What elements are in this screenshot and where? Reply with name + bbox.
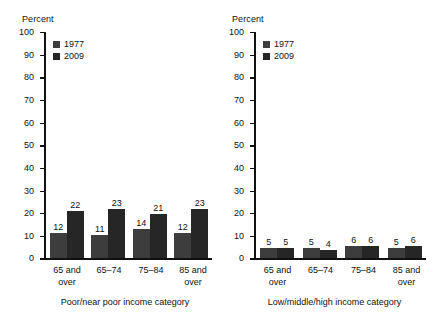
bar-wrap: 5 [388, 32, 405, 258]
bar-wrap: 6 [345, 32, 362, 258]
legend-item-2009: 2009 [53, 52, 84, 61]
y-axis-title: Percent [232, 14, 264, 24]
x-axis-title: Low/middle/high income category [237, 297, 432, 307]
bar-wrap: 23 [108, 32, 125, 258]
chart-panel-poor-near-poor: Percent 12 22 [0, 0, 217, 320]
bar-2009: 22 [67, 211, 84, 258]
y-tick: 10 [40, 236, 44, 237]
legend-swatch-icon [263, 53, 270, 60]
y-tick: 20 [40, 213, 44, 214]
y-tick: 10 [250, 236, 254, 237]
category-label: 75–84 [130, 265, 172, 288]
bar-value-2009: 5 [283, 238, 288, 247]
bar-wrap: 5 [277, 32, 294, 258]
bar-value-1977: 5 [394, 238, 399, 247]
y-tick-label: 80 [234, 73, 244, 82]
category-label: 65–74 [299, 265, 342, 288]
bar-2009: 6 [405, 246, 422, 259]
category-label: 65–74 [88, 265, 130, 288]
category-label: 75–84 [342, 265, 385, 288]
bar-1977: 5 [303, 248, 320, 259]
bar-group: 14 21 [129, 32, 171, 258]
bar-groups: 5 5 5 [256, 32, 426, 258]
bar-1977: 6 [345, 246, 362, 259]
y-tick-label: 10 [234, 231, 244, 240]
legend-swatch-icon [263, 41, 270, 48]
y-tick: 80 [40, 77, 44, 78]
bar-value-1977: 11 [95, 225, 104, 234]
category-label: 65 and over [46, 265, 88, 288]
y-axis-title: Percent [22, 14, 54, 24]
legend-item-1977: 1977 [263, 40, 294, 49]
legend: 1977 2009 [263, 40, 294, 61]
bar-group: 11 23 [88, 32, 130, 258]
y-tick: 100 [250, 32, 254, 33]
bar-group: 6 6 [341, 32, 384, 258]
bar-value-1977: 12 [53, 223, 63, 232]
y-tick-label: 80 [24, 73, 34, 82]
bar-1977: 12 [174, 233, 191, 259]
bar-group: 5 5 [256, 32, 299, 258]
bar-group: 12 23 [171, 32, 213, 258]
bar-value-1977: 12 [178, 223, 188, 232]
y-tick: 30 [250, 191, 254, 192]
y-tick-label: 20 [234, 209, 244, 218]
bar-wrap: 21 [150, 32, 167, 258]
bar-wrap: 23 [191, 32, 208, 258]
bar-1977: 11 [91, 235, 108, 259]
bar-1977: 5 [388, 248, 405, 259]
legend: 1977 2009 [53, 40, 84, 61]
y-tick: 40 [40, 168, 44, 169]
bar-value-1977: 5 [266, 238, 271, 247]
plot-area: 12 22 11 [44, 32, 212, 260]
bar-2009: 6 [362, 246, 379, 259]
y-tick-label: 70 [234, 95, 244, 104]
y-tick: 50 [250, 145, 254, 146]
y-tick-label: 100 [19, 28, 34, 37]
bar-value-2009: 22 [70, 201, 80, 210]
y-tick: 50 [40, 145, 44, 146]
bar-wrap: 12 [174, 32, 191, 258]
bar-value-2009: 6 [411, 236, 416, 245]
bar-1977: 12 [50, 233, 67, 259]
bar-value-2009: 6 [368, 236, 373, 245]
bar-wrap: 5 [303, 32, 320, 258]
bar-value-1977: 14 [136, 219, 146, 228]
y-tick: 0 [40, 258, 44, 259]
legend-swatch-icon [53, 53, 60, 60]
y-tick: 70 [250, 100, 254, 101]
y-tick-label: 100 [229, 28, 244, 37]
y-tick-label: 0 [239, 254, 244, 263]
legend-label: 2009 [64, 52, 84, 61]
y-tick: 30 [40, 191, 44, 192]
category-label: 85 and over [385, 265, 428, 288]
category-label: 65 and over [256, 265, 299, 288]
bar-groups: 12 22 11 [46, 32, 212, 258]
x-axis-line [44, 258, 212, 260]
legend-label: 1977 [274, 40, 294, 49]
bar-wrap: 4 [320, 32, 337, 258]
bar-wrap: 11 [91, 32, 108, 258]
bar-1977: 5 [260, 248, 277, 259]
y-tick-label: 40 [234, 163, 244, 172]
bar-group: 5 4 [299, 32, 342, 258]
y-tick-label: 0 [29, 254, 34, 263]
bar-wrap: 14 [133, 32, 150, 258]
bar-value-1977: 5 [309, 238, 314, 247]
bar-wrap: 12 [50, 32, 67, 258]
bar-wrap: 22 [67, 32, 84, 258]
bar-2009: 23 [191, 209, 208, 258]
y-tick-label: 70 [24, 95, 34, 104]
bar-value-2009: 23 [112, 199, 122, 208]
legend-label: 1977 [64, 40, 84, 49]
y-tick-label: 30 [234, 186, 244, 195]
y-tick-label: 60 [24, 118, 34, 127]
bar-2009: 5 [277, 248, 294, 259]
y-tick: 40 [250, 168, 254, 169]
plot-area: 5 5 5 [254, 32, 426, 260]
bar-value-1977: 6 [351, 236, 356, 245]
x-axis-title: Poor/near poor income category [30, 297, 220, 307]
category-labels: 65 and over 65–74 75–84 85 and over [46, 265, 214, 288]
x-axis-line [254, 258, 426, 260]
bar-value-2009: 23 [195, 199, 205, 208]
